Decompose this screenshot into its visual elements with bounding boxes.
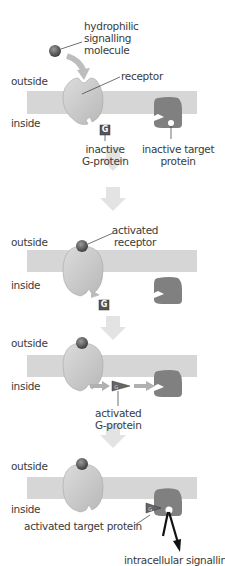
signalling-molecule (49, 45, 61, 57)
label-outside: outside (11, 236, 48, 248)
signalling-molecule (76, 240, 88, 252)
label-receptor: receptor (121, 70, 163, 82)
panel-2 (27, 233, 197, 340)
label-hydrophilic-signalling-molecule: hydrophilic signalling molecule (84, 20, 139, 56)
label-activated-g-protein: activated G-protein (95, 407, 141, 431)
label-activated-target-protein: activated target protein (24, 520, 142, 532)
label-activated-receptor: activated receptor (110, 224, 160, 248)
target-protein (154, 277, 182, 304)
target-protein (154, 370, 182, 397)
label-inside: inside (11, 279, 40, 291)
receptor (63, 464, 103, 512)
g-protein-glyph: G (113, 381, 119, 393)
g-protein-glyph: G (147, 503, 153, 515)
target-protein (154, 97, 182, 128)
receptor (63, 246, 103, 296)
label-inactive-g-protein: inactive G-protein (82, 143, 128, 167)
label-inside: inside (11, 503, 40, 515)
label-outside: outside (11, 337, 48, 349)
label-inactive-target-protein: inactive target protein (142, 143, 214, 167)
receptor (63, 78, 103, 125)
output-arrowhead (173, 539, 181, 552)
flow-arrow (134, 381, 155, 391)
panel-3 (27, 337, 197, 448)
signalling-molecule (76, 337, 88, 349)
step-arrow-1 (100, 187, 126, 211)
receptor (63, 343, 103, 391)
g-protein-glyph: G (100, 299, 108, 311)
label-inside: inside (11, 380, 40, 392)
label-inside: inside (11, 117, 40, 129)
g-protein-glyph: G (101, 124, 109, 136)
label-intracellular-signalling: intracellular signalling (124, 554, 225, 566)
label-outside: outside (11, 460, 48, 472)
membrane (27, 250, 197, 272)
signalling-molecule (76, 458, 88, 470)
panel-4 (27, 458, 197, 552)
label-outside: outside (11, 75, 48, 87)
